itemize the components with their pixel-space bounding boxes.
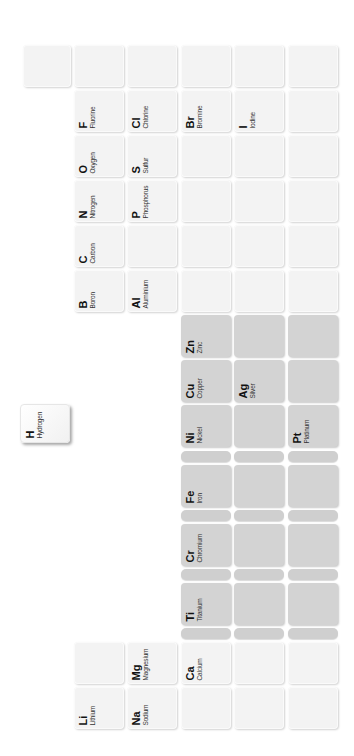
element-tile-empty[interactable] [288,524,338,566]
element-tile-silver[interactable]: AgSilver [234,360,284,402]
element-tile-empty[interactable] [234,225,284,267]
element-tile-empty[interactable] [234,583,284,625]
collapsed-group-bar[interactable] [181,510,231,521]
element-symbol: P [131,185,142,218]
element-tile-empty[interactable] [234,687,284,729]
element-tile-empty[interactable] [288,583,338,625]
element-tile-empty[interactable] [234,180,284,222]
element-tile-nitrogen[interactable]: NNitrogen [74,180,124,222]
element-symbol: Li [78,705,89,725]
element-tile-empty[interactable] [288,360,338,402]
collapsed-group-bar[interactable] [288,628,338,639]
element-tile-empty[interactable] [127,45,177,87]
element-name: Sulfur [143,157,150,173]
element-tile-empty[interactable] [288,180,338,222]
element-tile-magnesium[interactable]: MgMagnesium [127,642,177,684]
collapsed-group-bar[interactable] [288,569,338,580]
element-tile-empty[interactable] [288,135,338,177]
element-tile-copper[interactable]: CuCopper [181,360,231,402]
element-tile-empty[interactable] [288,45,338,87]
element-tile-sulfur[interactable]: SSulfur [127,135,177,177]
element-symbol: Cr [185,534,196,562]
element-tile-empty[interactable] [288,315,338,357]
element-name: Nickel [197,427,204,444]
element-symbol: Ca [185,658,196,680]
element-tile-platinum[interactable]: PtPlatinum [288,405,338,447]
element-tile-titanium[interactable]: TiTitanium [181,583,231,625]
element-tile-empty[interactable] [23,45,71,87]
element-name: Platinum [304,419,311,443]
element-tile-empty[interactable] [234,135,284,177]
element-name: Hydrogen [37,411,44,438]
element-symbol: Pt [292,419,303,443]
element-tile-empty[interactable] [74,642,124,684]
collapsed-group-bar[interactable] [288,451,338,462]
element-tile-hydrogen[interactable]: HHydrogen [20,404,70,443]
element-tile-iron[interactable]: FeIron [181,465,231,507]
element-tile-empty[interactable] [234,465,284,507]
element-tile-boron[interactable]: BBoron [74,270,124,312]
element-tile-empty[interactable] [181,135,231,177]
element-tile-sodium[interactable]: NaSodium [127,687,177,729]
element-tile-empty[interactable] [288,642,338,684]
element-tile-empty[interactable] [288,90,338,132]
element-tile-empty[interactable] [288,687,338,729]
element-name: Oxygen [90,152,97,173]
element-tile-calcium[interactable]: CaCalcium [181,642,231,684]
element-name: Iron [197,490,204,503]
element-tile-empty[interactable] [234,405,284,447]
element-tile-empty[interactable] [127,225,177,267]
element-symbol: O [78,152,89,173]
element-tile-carbon[interactable]: CCarbon [74,225,124,267]
element-tile-empty[interactable] [181,45,231,87]
element-tile-empty[interactable] [234,270,284,312]
element-name: Carbon [90,243,97,263]
element-name: Zinc [197,340,204,353]
collapsed-group-bar[interactable] [288,510,338,521]
collapsed-group-bar[interactable] [181,569,231,580]
element-symbol: S [131,157,142,173]
element-tile-fluorine[interactable]: FFluorine [74,90,124,132]
element-symbol: Zn [185,340,196,353]
element-tile-oxygen[interactable]: OOxygen [74,135,124,177]
element-tile-empty[interactable] [74,45,124,87]
element-tile-empty[interactable] [181,180,231,222]
element-tile-iodine[interactable]: IIodine [234,90,284,132]
element-tile-lithium[interactable]: LiLithium [74,687,124,729]
element-name: Calcium [197,658,204,680]
collapsed-group-bar[interactable] [234,569,284,580]
collapsed-group-bar[interactable] [234,628,284,639]
element-tile-empty[interactable] [181,687,231,729]
element-name: Lithium [90,705,97,725]
element-tile-bromine[interactable]: BrBromine [181,90,231,132]
collapsed-group-bar[interactable] [234,510,284,521]
element-tile-chromium[interactable]: CrChromium [181,524,231,566]
element-name: Magnesium [143,648,150,680]
element-tile-empty[interactable] [234,315,284,357]
collapsed-group-bar[interactable] [181,451,231,462]
element-symbol: N [78,195,89,218]
collapsed-group-bar[interactable] [181,628,231,639]
element-tile-empty[interactable] [234,524,284,566]
element-tile-zinc[interactable]: ZnZinc [181,315,231,357]
element-name: Fluorine [90,106,97,128]
element-tile-empty[interactable] [181,225,231,267]
element-tile-phosphorus[interactable]: PPhosphorus [127,180,177,222]
element-tile-aluminium[interactable]: AlAluminium [127,270,177,312]
collapsed-group-bar[interactable] [234,451,284,462]
element-name: Iodine [250,111,257,128]
element-symbol: Ag [238,383,249,398]
element-name: Sodium [143,704,150,725]
element-tile-empty[interactable] [234,642,284,684]
element-tile-empty[interactable] [181,270,231,312]
element-tile-nickel[interactable]: NiNickel [181,405,231,447]
element-name: Chromium [197,534,204,562]
element-tile-chlorine[interactable]: ClChlorine [127,90,177,132]
element-tile-empty[interactable] [288,465,338,507]
element-symbol: Na [131,704,142,725]
element-symbol: Fe [185,490,196,503]
element-tile-empty[interactable] [234,45,284,87]
element-tile-empty[interactable] [288,225,338,267]
element-name: Silver [250,383,257,398]
element-tile-empty[interactable] [288,270,338,312]
